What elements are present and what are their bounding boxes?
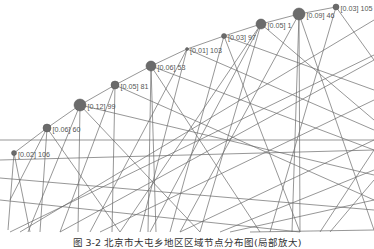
edge-line [0,150,374,160]
node-81: [0.05] 81 [111,81,148,91]
edge-line [299,14,300,232]
node-circle-icon [74,99,86,111]
node-106: [0.02] 106 [12,150,50,159]
node-103: [0.01] 103 [186,46,222,55]
node-circle-icon [146,61,156,71]
edge-line [47,128,120,232]
edge-line [336,7,374,60]
edge-line [151,66,260,232]
node-circle-icon [333,4,339,10]
node-1: [0.05] 1 [256,19,291,30]
node-circle-icon [256,19,266,29]
node-circle-icon [222,34,227,39]
node-label: [0.12] 99 [88,102,116,111]
edge-line [220,170,374,232]
node-label: [0.03] 97 [228,33,256,42]
node-circle-icon [43,124,51,132]
node-label: [0.06] 60 [53,125,81,134]
edges-layer [0,7,374,232]
edge-line [330,180,374,232]
edge-line [140,49,187,232]
edge-line [0,178,374,210]
edge-line [299,14,374,230]
edge-line [250,230,374,232]
node-60: [0.06] 60 [43,124,80,134]
node-label: [0.02] 106 [18,150,50,159]
node-53: [0.06] 53 [146,61,185,72]
node-label: [0.05] 81 [121,82,149,91]
edge-line [8,153,14,230]
edge-line [320,150,374,232]
node-circle-icon [186,48,189,51]
edge-line [10,128,47,200]
node-label: [0.09] 46 [307,11,335,20]
node-label: [0.06] 53 [158,63,186,72]
node-label: [0.05] 1 [268,21,292,30]
node-46: [0.09] 46 [293,8,334,20]
figure-caption: 图 3-2 北京市大屯乡地区区域节点分布图(局部放大) [0,235,374,249]
node-circle-icon [12,151,17,156]
node-label: [0.01] 103 [190,46,222,55]
edge-line [0,200,300,232]
node-97: [0.03] 97 [222,33,256,42]
node-label: [0.03] 105 [341,4,373,13]
edge-line [200,24,261,232]
edge-line [180,140,374,232]
node-circle-icon [293,8,305,20]
edge-line [292,14,299,232]
node-circle-icon [111,81,119,89]
edge-line [230,200,374,232]
edge-line [14,153,30,232]
edge-line [187,49,374,130]
